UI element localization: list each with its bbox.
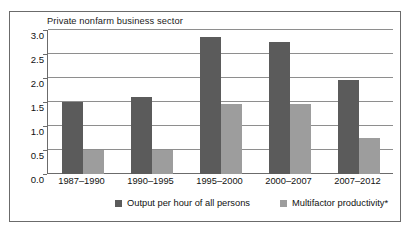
y-axis-tick-mark [43,174,47,175]
bar [269,42,290,174]
legend-swatch-icon [280,200,287,207]
bar [359,138,380,174]
x-axis: 1987–19901990–19951995–20002000–20072007… [47,176,392,192]
x-axis-tick-label: 1990–1995 [127,176,174,186]
bar [290,104,311,174]
bar [338,80,359,174]
plot-area [47,30,392,174]
legend-label: Output per hour of all persons [127,198,250,208]
x-axis-tick-label: 1995–2000 [196,176,243,186]
legend-label: Multifactor productivity* [292,198,388,208]
x-axis-tick-label: 2000–2007 [265,176,312,186]
legend-item[interactable]: Output per hour of all persons [115,198,250,208]
bar [83,150,104,174]
legend-item[interactable]: Multifactor productivity* [280,198,388,208]
chart-legend: Output per hour of all personsMultifacto… [47,198,392,214]
x-axis-tick-label: 2007–2012 [334,176,381,186]
gridline [48,53,393,54]
gridline [48,29,393,30]
chart-title: Private nonfarm business sector [47,16,183,26]
bar [221,104,242,174]
bar [62,102,83,174]
y-axis: 0.00.51.01.52.02.53.0 [0,30,44,174]
legend-swatch-icon [115,200,122,207]
gridline [48,77,393,78]
bar [131,97,152,174]
bar [152,150,173,174]
x-axis-tick-label: 1987–1990 [58,176,105,186]
chart-figure: Private nonfarm business sector 0.00.51.… [0,0,413,234]
bar [200,37,221,174]
